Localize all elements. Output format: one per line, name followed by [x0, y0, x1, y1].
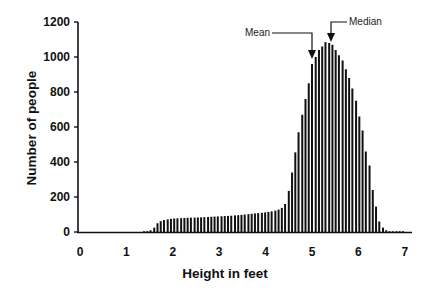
- histogram-bar: [224, 216, 226, 232]
- histogram-bar: [271, 211, 273, 232]
- histogram-bar: [362, 131, 364, 233]
- histogram-bars: [143, 42, 404, 232]
- histogram-bar: [200, 217, 202, 232]
- median-arrow-icon: [327, 33, 335, 42]
- histogram-bar: [187, 218, 189, 232]
- histogram-bar: [190, 218, 192, 232]
- histogram-bar: [305, 99, 307, 232]
- histogram-bar: [170, 219, 172, 232]
- histogram-bar: [194, 218, 196, 232]
- x-ticks: 01234567: [77, 245, 409, 259]
- histogram-bar: [217, 216, 219, 232]
- histogram-bar: [358, 117, 360, 233]
- histogram-bar: [160, 221, 162, 232]
- histogram-bar: [257, 213, 259, 232]
- x-axis-title: Height in feet: [182, 266, 268, 281]
- y-tick-label: 800: [50, 85, 70, 99]
- y-ticks: 020040060080010001200: [43, 15, 78, 239]
- histogram-bar: [197, 217, 199, 232]
- histogram-bar: [163, 220, 165, 232]
- histogram-bar: [176, 218, 178, 232]
- y-tick-label: 400: [50, 155, 70, 169]
- histogram-bar: [311, 64, 313, 232]
- histogram-bar: [167, 219, 169, 232]
- histogram-bar: [378, 222, 380, 233]
- histogram-bar: [382, 228, 384, 232]
- histogram-bar: [234, 215, 236, 232]
- histogram-bar: [207, 217, 209, 232]
- x-tick-label: 0: [77, 245, 84, 259]
- y-tick-label: 0: [63, 225, 70, 239]
- histogram-bar: [345, 69, 347, 232]
- histogram-bar: [227, 216, 229, 232]
- histogram-bar: [351, 89, 353, 233]
- histogram-bar: [183, 218, 185, 232]
- histogram-bar: [288, 191, 290, 232]
- histogram-bar: [278, 210, 280, 232]
- histogram-bar: [153, 228, 155, 232]
- histogram-bar: [180, 218, 182, 232]
- x-tick-label: 3: [216, 245, 223, 259]
- y-tick-label: 600: [50, 120, 70, 134]
- histogram-bar: [203, 217, 205, 232]
- histogram-bar: [315, 57, 317, 232]
- x-tick-label: 2: [169, 245, 176, 259]
- histogram-bar: [372, 190, 374, 232]
- histogram-bar: [348, 78, 350, 232]
- histogram-bar: [318, 50, 320, 232]
- histogram-bar: [369, 166, 371, 233]
- histogram-bar: [281, 208, 283, 232]
- histogram-bar: [308, 83, 310, 232]
- x-tick-label: 1: [123, 245, 130, 259]
- y-tick-label: 1000: [43, 50, 70, 64]
- histogram-bar: [324, 42, 326, 232]
- y-tick-label: 1200: [43, 15, 70, 29]
- histogram-bar: [237, 215, 239, 232]
- histogram-bar: [251, 214, 253, 232]
- histogram-bar: [173, 219, 175, 232]
- histogram-bar: [214, 217, 216, 232]
- histogram-bar: [274, 211, 276, 232]
- height-histogram-chart: 020040060080010001200 01234567 Height in…: [0, 0, 435, 294]
- histogram-bar: [267, 212, 269, 232]
- histogram-bar: [230, 216, 232, 232]
- x-tick-label: 6: [355, 245, 362, 259]
- x-tick-label: 7: [401, 245, 408, 259]
- x-tick-label: 4: [262, 245, 269, 259]
- histogram-bar: [291, 173, 293, 233]
- median-label: Median: [349, 16, 382, 27]
- histogram-bar: [328, 43, 330, 232]
- histogram-bar: [244, 215, 246, 233]
- histogram-bar: [254, 213, 256, 232]
- histogram-bar: [264, 212, 266, 232]
- annotations: Mean Median: [245, 16, 382, 59]
- histogram-bar: [365, 152, 367, 233]
- histogram-bar: [210, 217, 212, 232]
- histogram-bar: [298, 132, 300, 232]
- histogram-bar: [355, 101, 357, 232]
- histogram-bar: [301, 115, 303, 232]
- histogram-bar: [331, 45, 333, 232]
- histogram-bar: [156, 223, 158, 232]
- histogram-bar: [338, 55, 340, 232]
- mean-label: Mean: [245, 27, 270, 38]
- mean-arrow-line: [272, 33, 312, 52]
- histogram-bar: [335, 50, 337, 232]
- histogram-bar: [261, 213, 263, 232]
- histogram-bar: [375, 207, 377, 232]
- x-tick-label: 5: [309, 245, 316, 259]
- y-tick-label: 200: [50, 190, 70, 204]
- histogram-bar: [240, 215, 242, 232]
- histogram-bar: [321, 47, 323, 233]
- histogram-bar: [221, 216, 223, 232]
- histogram-bar: [294, 152, 296, 232]
- histogram-bar: [284, 204, 286, 232]
- histogram-bar: [342, 61, 344, 233]
- histogram-bar: [247, 214, 249, 232]
- y-axis-title: Number of people: [24, 70, 39, 185]
